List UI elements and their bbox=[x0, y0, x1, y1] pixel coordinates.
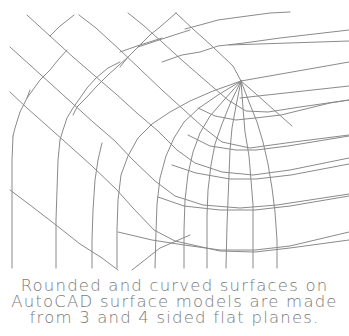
diagonal-mesh-lines bbox=[10, 13, 349, 270]
caption-line-3: from 3 and 4 sided flat planes. bbox=[0, 310, 349, 326]
apex-fan-lines bbox=[117, 41, 349, 268]
circumferential-mesh-lines bbox=[13, 12, 349, 140]
surface-mesh-figure: Rounded and curved surfaces on AutoCAD s… bbox=[0, 0, 349, 336]
figure-caption: Rounded and curved surfaces on AutoCAD s… bbox=[0, 278, 349, 326]
